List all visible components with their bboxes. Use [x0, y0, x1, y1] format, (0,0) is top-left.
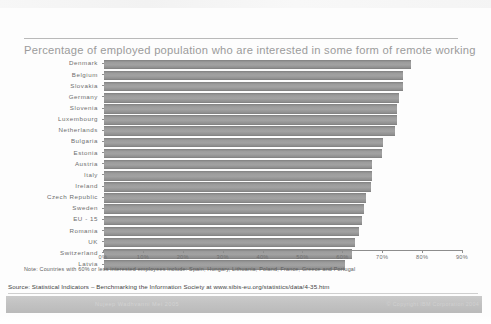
bar-row: Luxembourg: [0, 114, 491, 125]
x-axis-tick: [342, 250, 343, 253]
bar: [104, 126, 395, 136]
bar-row: Ireland: [0, 181, 491, 192]
bar-category-label: Netherlands: [0, 127, 104, 133]
bar: [104, 115, 397, 125]
bar-category-label: Belgium: [0, 72, 104, 78]
x-axis-tick-label: 70%: [376, 254, 388, 260]
bar-track: [104, 203, 491, 214]
x-axis-tick-label: 40%: [256, 254, 268, 260]
bar: [104, 60, 411, 70]
x-axis-tick-label: 80%: [416, 254, 428, 260]
bar-track: [104, 192, 491, 203]
bar: [104, 204, 364, 214]
bar-row: UK: [0, 236, 491, 247]
bar: [104, 149, 382, 159]
x-axis-tick: [263, 250, 264, 253]
bar: [104, 216, 362, 226]
bar-category-label: Slovenia: [0, 105, 104, 111]
bar-row: Italy: [0, 169, 491, 180]
page-edge-shadow: [0, 314, 491, 324]
chart-note: Note: Countries with 60% or less interes…: [24, 266, 474, 272]
bar: [104, 193, 366, 203]
x-axis-tick-label: 10%: [137, 254, 149, 260]
x-axis-tick-label: 0%: [99, 254, 108, 260]
footer-author: Nujeep Wadhvanni Mei 2005: [95, 301, 179, 307]
bar-category-label: Italy: [0, 172, 104, 178]
source-divider: [8, 293, 478, 294]
bar: [104, 138, 383, 148]
x-axis-tick-label: 20%: [177, 254, 189, 260]
bar-row: Bulgaria: [0, 136, 491, 147]
bar-track: [104, 69, 491, 80]
bar: [104, 238, 355, 248]
bar-track: [104, 114, 491, 125]
x-axis-tick: [462, 250, 463, 253]
bar-row: Belgium: [0, 69, 491, 80]
bar-category-label: UK: [0, 239, 104, 245]
x-axis-tick-label: 50%: [296, 254, 308, 260]
bar-track: [104, 214, 491, 225]
x-axis-tick-label: 60%: [336, 254, 348, 260]
bar-row: Netherlands: [0, 125, 491, 136]
bar-category-label: Austria: [0, 161, 104, 167]
x-axis-tick: [382, 250, 383, 253]
x-axis-tick-label: 30%: [217, 254, 229, 260]
bar: [104, 182, 371, 192]
x-axis-tick: [223, 250, 224, 253]
bar-rows: DenmarkBelgiumSlovakiaGermanySloveniaLux…: [0, 58, 491, 270]
bar-row: Romania: [0, 225, 491, 236]
scan-artifact-strip: [0, 0, 491, 8]
bar-chart: DenmarkBelgiumSlovakiaGermanySloveniaLux…: [0, 58, 491, 258]
x-axis-tick: [103, 250, 104, 253]
bar-row: Slovakia: [0, 80, 491, 91]
bar-row: Austria: [0, 158, 491, 169]
bar-row: Germany: [0, 91, 491, 102]
bar-category-label: Bulgaria: [0, 138, 104, 144]
title-divider: [24, 38, 458, 39]
bar: [104, 104, 397, 114]
bar: [104, 82, 403, 92]
x-axis-tick-labels: 0%10%20%30%40%50%60%70%80%90%: [0, 254, 491, 264]
bar-track: [104, 169, 491, 180]
bar-category-label: Czech Republic: [0, 194, 104, 200]
page-title: Percentage of employed population who ar…: [24, 44, 469, 56]
bar-track: [104, 236, 491, 247]
bar-category-label: Slovakia: [0, 83, 104, 89]
bar-track: [104, 80, 491, 91]
bar-category-label: EU - 15: [0, 216, 104, 222]
bar: [104, 71, 403, 81]
bar-track: [104, 136, 491, 147]
source-citation: Source: Statistical Indicators – Benchma…: [8, 283, 478, 290]
x-axis-tick: [422, 250, 423, 253]
presentation-slide: Percentage of employed population who ar…: [0, 0, 491, 324]
bar-track: [104, 181, 491, 192]
bar-track: [104, 91, 491, 102]
x-axis-tick: [183, 250, 184, 253]
bar: [104, 160, 372, 170]
bar-track: [104, 158, 491, 169]
bar-category-label: Ireland: [0, 183, 104, 189]
bar-row: Czech Republic: [0, 192, 491, 203]
bar: [104, 93, 399, 103]
bar-row: EU - 15: [0, 214, 491, 225]
bar-category-label: Sweden: [0, 205, 104, 211]
bar-track: [104, 225, 491, 236]
bar-row: Estonia: [0, 147, 491, 158]
bar-row: Sweden: [0, 203, 491, 214]
bar: [104, 171, 372, 181]
bar: [104, 227, 359, 237]
bar-category-label: Germany: [0, 94, 104, 100]
bar-category-label: Luxembourg: [0, 116, 104, 122]
bar-track: [104, 58, 491, 69]
x-axis-tick: [143, 250, 144, 253]
bar-category-label: Romania: [0, 228, 104, 234]
footer-copyright: © Copyright IBM Corporation 2004: [387, 301, 479, 307]
bar-category-label: Denmark: [0, 60, 104, 66]
bar-track: [104, 103, 491, 114]
bar-track: [104, 125, 491, 136]
bar-track: [104, 147, 491, 158]
x-axis-tick-label: 90%: [456, 254, 468, 260]
x-axis-tick: [302, 250, 303, 253]
bar-row: Denmark: [0, 58, 491, 69]
bar-category-label: Estonia: [0, 150, 104, 156]
